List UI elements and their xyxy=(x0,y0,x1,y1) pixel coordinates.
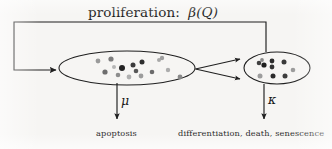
left-cell-population xyxy=(59,51,195,85)
right-cell-population xyxy=(244,52,310,84)
cell-dot xyxy=(102,69,107,74)
cell-dot xyxy=(131,63,136,68)
cell-dot xyxy=(178,75,183,80)
cell-dot xyxy=(270,59,275,64)
cell-dot xyxy=(283,74,288,79)
cell-dot xyxy=(140,60,145,65)
cell-dot xyxy=(166,68,170,72)
title-symbol: β(Q) xyxy=(188,4,218,20)
cell-dot xyxy=(127,75,132,80)
differentiation-death-senescence-caption: differentiation, death, senescence xyxy=(178,129,324,137)
cell-dot xyxy=(112,65,116,69)
left-population-dots xyxy=(96,56,183,80)
cell-dot xyxy=(282,60,287,65)
title-prefix: proliferation: xyxy=(88,4,180,20)
kappa-rate-label: κ xyxy=(268,94,276,107)
right-population-dots xyxy=(257,58,296,78)
cell-dot xyxy=(119,65,125,71)
cell-dot xyxy=(270,65,275,70)
cell-dot xyxy=(260,58,264,62)
cell-dot xyxy=(257,61,262,66)
cell-dot xyxy=(258,74,263,79)
apoptosis-caption: apoptosis xyxy=(96,129,137,137)
cell-dot xyxy=(96,59,101,64)
cell-dot xyxy=(139,74,144,79)
cell-dot xyxy=(134,69,139,74)
cell-dot xyxy=(108,56,113,61)
diagram-svg xyxy=(0,0,332,149)
transition-arrow-upper xyxy=(196,59,241,69)
cell-dot xyxy=(271,74,276,79)
cell-dot xyxy=(160,56,164,60)
transition-arrow-lower xyxy=(196,69,241,79)
cell-dot xyxy=(291,68,296,73)
mu-rate-label: μ xyxy=(121,95,129,108)
diagram-canvas: proliferation: β(Q) μ κ apoptosis differ… xyxy=(0,0,332,149)
diagram-title: proliferation: β(Q) xyxy=(88,6,218,20)
cell-dot xyxy=(116,73,121,78)
cell-dot xyxy=(261,62,266,67)
cell-dot xyxy=(150,70,155,75)
